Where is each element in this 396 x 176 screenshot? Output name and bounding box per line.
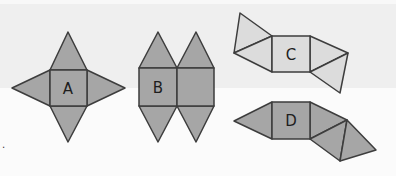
net-d-label: D bbox=[285, 112, 297, 130]
net-b-right-square bbox=[177, 68, 214, 106]
net-d: D bbox=[234, 102, 376, 161]
net-a-bottom-triangle bbox=[50, 106, 87, 142]
net-a: A bbox=[12, 32, 125, 142]
net-a-top-triangle bbox=[50, 32, 87, 70]
net-b-top-right-triangle bbox=[177, 32, 214, 68]
net-d-left-triangle bbox=[234, 102, 272, 139]
net-d-lower-triangle-2 bbox=[340, 120, 376, 161]
net-c-label: C bbox=[286, 46, 296, 64]
net-a-left-triangle bbox=[12, 70, 50, 106]
net-b-label: B bbox=[153, 79, 163, 97]
net-b-bottom-right-triangle bbox=[177, 106, 214, 142]
nets-diagram: A B C D bbox=[0, 0, 396, 176]
net-a-right-triangle bbox=[87, 70, 125, 106]
net-b: B bbox=[139, 32, 214, 142]
net-b-bottom-left-triangle bbox=[139, 106, 177, 142]
net-b-top-left-triangle bbox=[139, 32, 177, 68]
net-a-label: A bbox=[63, 80, 74, 98]
net-c: C bbox=[234, 13, 348, 93]
